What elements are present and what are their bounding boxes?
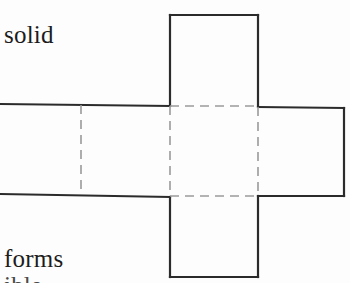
- band-top-edge-right: [258, 107, 344, 108]
- caption-forms: forms: [4, 246, 63, 272]
- caption-solid: solid: [4, 22, 54, 48]
- net-fold-lines: [81, 105, 258, 196]
- band-bottom-edge-left: [0, 194, 170, 197]
- caption-clipped: ible: [4, 273, 42, 283]
- net-solid-outline: [0, 15, 344, 277]
- cube-net-figure: solid forms ible: [0, 0, 350, 283]
- band-top-edge-left: [0, 104, 170, 106]
